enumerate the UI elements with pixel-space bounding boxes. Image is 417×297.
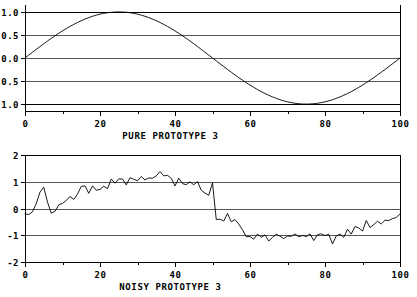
x-tick-label: 100 bbox=[392, 270, 410, 280]
x-tick-label: 40 bbox=[170, 270, 182, 280]
y-tick-label: 0.5 bbox=[1, 31, 19, 41]
x-axis-title: PURE PROTOTYPE 3 bbox=[122, 131, 218, 141]
x-tick-label: 60 bbox=[245, 119, 257, 129]
y-tick-label: -1 bbox=[7, 231, 19, 241]
chart-panel-pure: -1.0-0.50.00.51.0020406080100PURE PROTOT… bbox=[0, 0, 417, 150]
y-tick-label: -0.5 bbox=[0, 77, 19, 87]
y-tick-label: 1.0 bbox=[1, 8, 19, 18]
y-tick-label: 0 bbox=[13, 205, 19, 215]
figure-root: -1.0-0.50.00.51.0020406080100PURE PROTOT… bbox=[0, 0, 417, 297]
y-tick-label: -2 bbox=[7, 258, 19, 268]
x-tick-label: 60 bbox=[245, 270, 257, 280]
pure-prototype-series bbox=[25, 12, 400, 104]
x-tick-label: 80 bbox=[320, 119, 332, 129]
x-tick-label: 0 bbox=[23, 119, 29, 129]
chart-panel-noisy: -2-1012020406080100NOISY PROTOTYPE 3 bbox=[0, 150, 417, 297]
noisy-prototype-plot: -2-1012020406080100NOISY PROTOTYPE 3 bbox=[0, 150, 417, 297]
y-tick-label: -1.0 bbox=[0, 100, 19, 110]
x-tick-label: 20 bbox=[95, 270, 107, 280]
y-tick-label: 2 bbox=[13, 151, 19, 161]
y-tick-label: 1 bbox=[13, 178, 19, 188]
x-tick-label: 80 bbox=[320, 270, 332, 280]
x-tick-label: 40 bbox=[170, 119, 182, 129]
x-axis-title: NOISY PROTOTYPE 3 bbox=[119, 282, 221, 292]
x-tick-label: 0 bbox=[23, 270, 29, 280]
x-tick-label: 100 bbox=[392, 119, 410, 129]
x-tick-label: 20 bbox=[95, 119, 107, 129]
pure-prototype-plot: -1.0-0.50.00.51.0020406080100PURE PROTOT… bbox=[0, 0, 417, 150]
y-tick-label: 0.0 bbox=[1, 54, 19, 64]
